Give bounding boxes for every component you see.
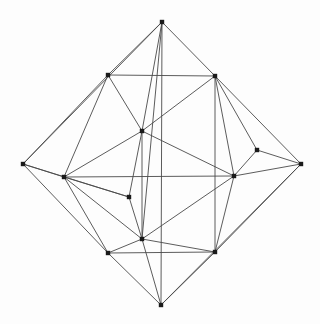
- graph-figure: [0, 0, 320, 324]
- graph-vertex-upper-right: [213, 74, 217, 78]
- graph-vertex-lower-left: [106, 251, 110, 255]
- graph-vertex-bottom-apex: [159, 303, 163, 307]
- graph-vertex-right-apex: [299, 162, 303, 166]
- graph-vertex-lower-center: [140, 237, 144, 241]
- graph-vertex-top-apex: [160, 20, 164, 24]
- graph-vertex-right-upper-inner: [255, 148, 259, 152]
- graph-vertex-center-upper: [140, 129, 144, 133]
- graph-vertex-right-inner: [232, 174, 236, 178]
- graph-vertex-left-inner: [62, 175, 66, 179]
- graph-canvas: [0, 0, 320, 324]
- graph-vertex-upper-left: [106, 73, 110, 77]
- graph-vertex-center-lower: [127, 195, 131, 199]
- graph-vertex-lower-right: [213, 250, 217, 254]
- graph-vertex-left-apex: [21, 162, 25, 166]
